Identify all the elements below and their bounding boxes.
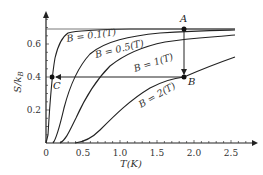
svg-text:S/kB: S/kB bbox=[12, 71, 25, 92]
x-axis-title: T(K) bbox=[120, 158, 142, 169]
y-axis-arrow-icon bbox=[43, 11, 49, 18]
point-a bbox=[182, 27, 187, 32]
curve-label-b1: B = 1(T) bbox=[131, 51, 174, 74]
point-b-label: B bbox=[187, 76, 195, 87]
x-tick-label: 1.0 bbox=[113, 148, 128, 158]
x-tick-label: 0 bbox=[43, 148, 49, 158]
x-tick-labels: 0 0.5 1.0 1.5 2.0 2.5 bbox=[43, 148, 238, 158]
y-tick-label: 0.2 bbox=[27, 105, 41, 115]
x-tick-label: 1.5 bbox=[150, 148, 165, 158]
y-tick-labels: 0.2 0.4 0.6 bbox=[27, 39, 42, 115]
y-tick-label: 0.6 bbox=[27, 39, 42, 49]
x-tick-label: 2.5 bbox=[224, 148, 239, 158]
point-c-label: C bbox=[53, 80, 61, 91]
point-c bbox=[50, 75, 55, 80]
curve-label-b05: B = 0.5(T) bbox=[93, 37, 145, 60]
point-a-label: A bbox=[179, 13, 187, 24]
entropy-temperature-chart: 0 0.5 1.0 1.5 2.0 2.5 0.2 0.4 0.6 T(K) S… bbox=[0, 0, 263, 175]
point-b bbox=[182, 75, 187, 80]
x-axis-arrow-icon bbox=[252, 140, 258, 146]
y-tick-label: 0.4 bbox=[27, 72, 42, 82]
x-tick-label: 2.0 bbox=[187, 148, 202, 158]
x-tick-label: 0.5 bbox=[76, 148, 91, 158]
y-axis-title: S/kB bbox=[12, 71, 25, 92]
